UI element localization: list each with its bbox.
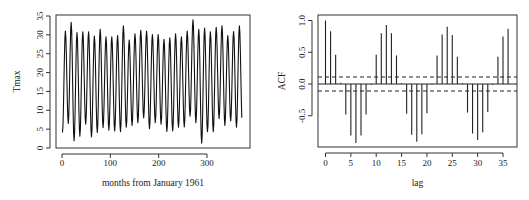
y-tick-label: 5 <box>35 126 45 131</box>
x-axis-label: lag <box>412 178 424 188</box>
y-tick-label: 0 <box>35 145 45 150</box>
y-tick-label: 15 <box>35 86 45 96</box>
acf-panel: 05101520253035-0.50.00.51.0 lag ACF <box>277 14 517 188</box>
x-tick-label: 15 <box>397 158 407 168</box>
y-tick-label: -0.5 <box>297 108 307 123</box>
x-tick-label: 10 <box>372 158 382 168</box>
timeseries-panel: 010020030005101520253035 months from Jan… <box>12 11 250 188</box>
y-tick-label: 1.0 <box>297 14 307 26</box>
y-tick-label: 10 <box>35 105 45 115</box>
y-axis-label: ACF <box>277 72 287 90</box>
y-tick-label: 30 <box>35 30 45 40</box>
x-tick-label: 200 <box>152 158 166 168</box>
x-tick-label: 0 <box>60 158 65 168</box>
tmax-line <box>62 20 241 143</box>
y-tick-label: 25 <box>35 49 45 59</box>
x-tick-label: 30 <box>473 158 483 168</box>
y-axis-label: Tmax <box>12 70 22 92</box>
tmax-series-line <box>62 20 241 143</box>
y-tick-label: 35 <box>35 11 45 21</box>
acf-bars <box>318 21 517 144</box>
x-axis-label: months from January 1961 <box>102 178 204 188</box>
y-tick-label: 0.5 <box>297 46 307 58</box>
x-tick-label: 100 <box>104 158 118 168</box>
x-tick-label: 20 <box>422 158 432 168</box>
y-tick-label: 0.0 <box>297 78 307 90</box>
x-tick-label: 5 <box>349 158 354 168</box>
plot-frame <box>318 15 517 147</box>
plot-canvas: 010020030005101520253035 months from Jan… <box>0 0 529 200</box>
x-tick-label: 35 <box>499 158 509 168</box>
x-tick-label: 300 <box>200 158 214 168</box>
y-tick-label: 20 <box>35 68 45 78</box>
figure: 010020030005101520253035 months from Jan… <box>0 0 529 200</box>
x-tick-label: 25 <box>448 158 458 168</box>
x-tick-label: 0 <box>323 158 328 168</box>
